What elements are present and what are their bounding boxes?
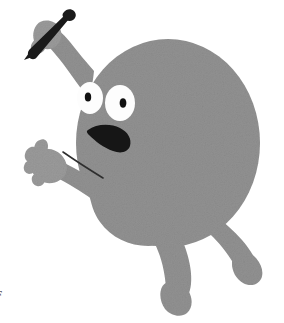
corner-glyph-text: F xyxy=(0,288,8,301)
illustration-canvas: F xyxy=(0,0,284,323)
corner-glyph-fragment: F xyxy=(0,288,8,318)
right-pupil xyxy=(120,98,127,108)
blob-character-illustration xyxy=(0,0,284,323)
left-pupil xyxy=(85,92,91,101)
